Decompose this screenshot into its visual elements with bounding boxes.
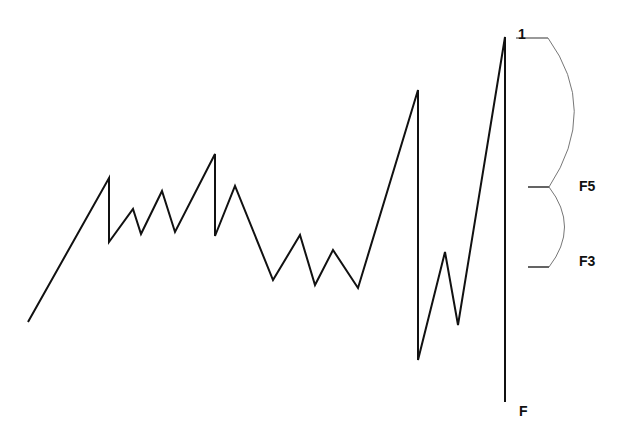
level-label-F5: F5 [579, 179, 595, 193]
level-label-F3: F3 [579, 254, 595, 268]
bracket-1-to-F5 [548, 38, 574, 187]
bracket-F5-to-F3 [549, 187, 565, 267]
level-label-1: 1 [518, 27, 526, 41]
level-label-F: F [519, 404, 528, 418]
wave-diagram [0, 0, 623, 439]
price-zigzag-line [28, 37, 505, 402]
